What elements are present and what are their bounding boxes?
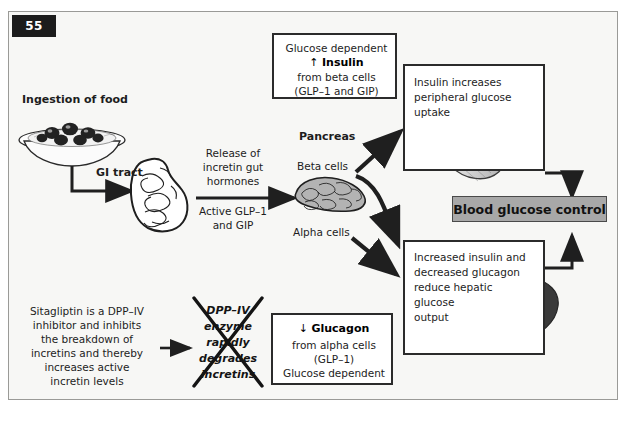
sitagliptin-line5: increases active bbox=[13, 361, 161, 374]
glucagon-box: ↓ Glucagon from alpha cells (GLP–1) Gluc… bbox=[271, 313, 393, 385]
release-line2: incretin gut bbox=[185, 161, 281, 174]
gi-tract-label: GI tract bbox=[96, 166, 143, 179]
sitagliptin-line2: inhibitor and inhibits bbox=[13, 319, 161, 332]
liver-line4: glucose bbox=[414, 296, 454, 309]
insulin-term: Insulin bbox=[322, 56, 364, 69]
liver-line3: reduce hepatic bbox=[414, 281, 492, 294]
sitagliptin-line3: the breakdown of bbox=[13, 333, 161, 346]
insulin-box: Glucose dependent ↑ Insulin from beta ce… bbox=[272, 33, 397, 99]
insulin-line3: from beta cells bbox=[274, 71, 399, 84]
dpp-blocked-line3: rapidly bbox=[192, 337, 264, 349]
dpp-blocked-line5: incretins bbox=[192, 369, 264, 381]
release-line1: Release of bbox=[185, 147, 281, 160]
dpp-blocked-line4: degrades bbox=[192, 353, 264, 365]
ingestion-label: Ingestion of food bbox=[22, 93, 128, 106]
sitagliptin-line1: Sitagliptin is a DPP–IV bbox=[13, 305, 161, 318]
liver-line2: decreased glucagon bbox=[414, 266, 520, 279]
insulin-line1: Glucose dependent bbox=[274, 42, 399, 55]
pancreas-label: Pancreas bbox=[299, 130, 355, 143]
dpp-blocked-line2: enzyme bbox=[192, 321, 264, 333]
muscle-box: Insulin increases peripheral glucose upt… bbox=[403, 64, 545, 171]
active-glp1-line1: Active GLP–1 bbox=[185, 205, 281, 218]
alpha-cells-label: Alpha cells bbox=[293, 226, 350, 239]
liver-line1: Increased insulin and bbox=[414, 251, 526, 264]
sitagliptin-line4: incretins and thereby bbox=[13, 347, 161, 360]
insulin-line4: (GLP–1 and GIP) bbox=[274, 85, 399, 98]
liver-box: Increased insulin and decreased glucagon… bbox=[403, 240, 545, 355]
down-arrow-icon: ↓ bbox=[299, 322, 308, 335]
dpp-blocked-line1: DPP–IV bbox=[192, 305, 264, 317]
muscle-line2: peripheral glucose bbox=[414, 91, 512, 104]
sitagliptin-line6: incretin levels bbox=[13, 375, 161, 388]
active-glp1-line2: and GIP bbox=[185, 219, 281, 232]
figure-canvas: 55 bbox=[0, 0, 628, 422]
liver-line5: output bbox=[414, 311, 449, 324]
glucagon-line3: (GLP–1) bbox=[273, 353, 395, 366]
beta-cells-label: Beta cells bbox=[297, 160, 348, 173]
page-number-badge: 55 bbox=[12, 15, 56, 37]
glucagon-line4: Glucose dependent bbox=[273, 367, 395, 380]
up-arrow-icon: ↑ bbox=[309, 56, 318, 69]
glucagon-term: Glucagon bbox=[311, 322, 369, 335]
muscle-line1: Insulin increases bbox=[414, 76, 501, 89]
glucagon-line2: from alpha cells bbox=[273, 339, 395, 352]
release-line3: hormones bbox=[185, 175, 281, 188]
blood-glucose-control-box: Blood glucose control bbox=[452, 196, 607, 222]
insulin-headline: ↑ Insulin bbox=[274, 56, 399, 69]
muscle-line3: uptake bbox=[414, 106, 450, 119]
glucagon-headline: ↓ Glucagon bbox=[273, 322, 395, 335]
